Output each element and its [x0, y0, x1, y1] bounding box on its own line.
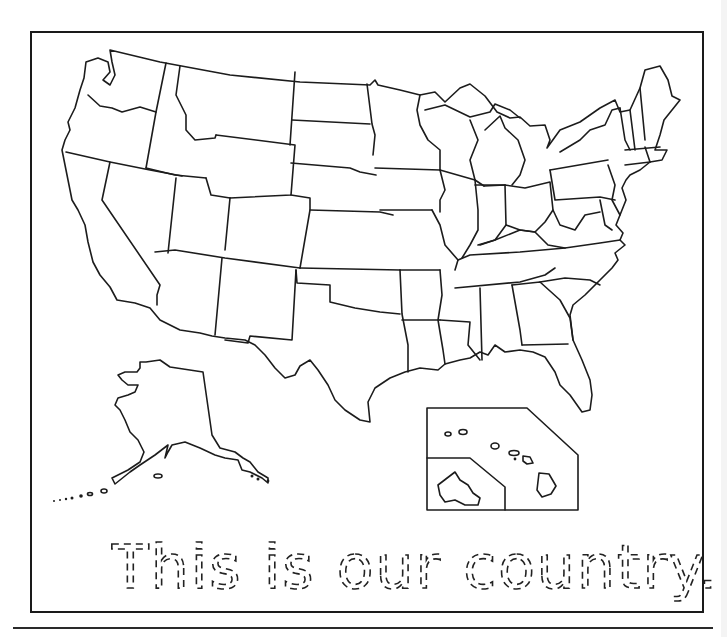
tracing-text-area: This is our country. [0, 0, 727, 637]
tracing-sentence: This is our country. [111, 532, 719, 602]
worksheet-page: This is our country. [0, 0, 727, 637]
